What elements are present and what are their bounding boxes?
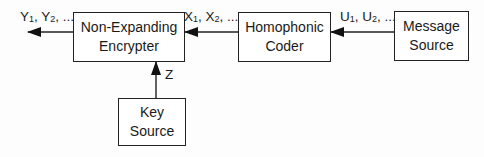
label-x-sequence: X1, X2, ... xyxy=(184,9,238,26)
label-y-sequence: Y1, Y2, ... xyxy=(20,9,74,26)
homophonic-coder-box: Homophonic Coder xyxy=(238,12,331,62)
label-z-key: Z xyxy=(165,67,173,82)
diagram-canvas: Non-Expanding Encrypter Homophonic Coder… xyxy=(0,0,484,157)
message-label-line2: Source xyxy=(409,36,453,55)
coder-label-line2: Coder xyxy=(265,37,303,56)
message-label-line1: Message xyxy=(403,17,460,36)
key-label-line2: Source xyxy=(130,122,174,141)
key-label-line1: Key xyxy=(140,103,164,122)
coder-label-line1: Homophonic xyxy=(245,18,324,37)
encrypter-label-line1: Non-Expanding xyxy=(81,18,178,37)
label-u-sequence: U1, U2, ... xyxy=(340,9,396,26)
encrypter-label-line2: Encrypter xyxy=(99,37,159,56)
key-source-box: Key Source xyxy=(118,98,186,146)
message-source-box: Message Source xyxy=(394,11,469,61)
encrypter-box: Non-Expanding Encrypter xyxy=(73,12,185,62)
